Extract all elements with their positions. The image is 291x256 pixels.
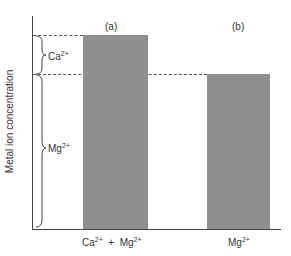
xcat-a-mg-sup: 2+ — [134, 236, 142, 243]
brace-ca-sup: 2+ — [61, 50, 69, 57]
xcat-a-ca: Ca — [82, 237, 95, 248]
brace-label-ca: Ca2+ — [48, 50, 69, 62]
brace-mg-icon — [36, 75, 46, 227]
xcat-b-mg: Mg — [228, 237, 242, 248]
panel-label-b: (b) — [232, 21, 244, 32]
chart-canvas: Metal ion concentration Ca2+ Mg2+ (a) (b… — [0, 0, 291, 256]
brace-annotations — [0, 0, 291, 256]
brace-ca-base: Ca — [48, 51, 61, 62]
brace-ca-icon — [36, 36, 46, 74]
xcat-a-ca-sup: 2+ — [95, 236, 103, 243]
panel-label-a: (a) — [105, 21, 117, 32]
x-category-b: Mg2+ — [228, 236, 250, 248]
brace-mg-base: Mg — [48, 143, 62, 154]
brace-label-mg: Mg2+ — [48, 142, 70, 154]
brace-mg-sup: 2+ — [62, 142, 70, 149]
xcat-b-mg-sup: 2+ — [242, 236, 250, 243]
xcat-a-mg: Mg — [120, 237, 134, 248]
x-category-a: Ca2+ + Mg2+ — [82, 236, 142, 248]
xcat-a-plus: + — [108, 237, 114, 248]
